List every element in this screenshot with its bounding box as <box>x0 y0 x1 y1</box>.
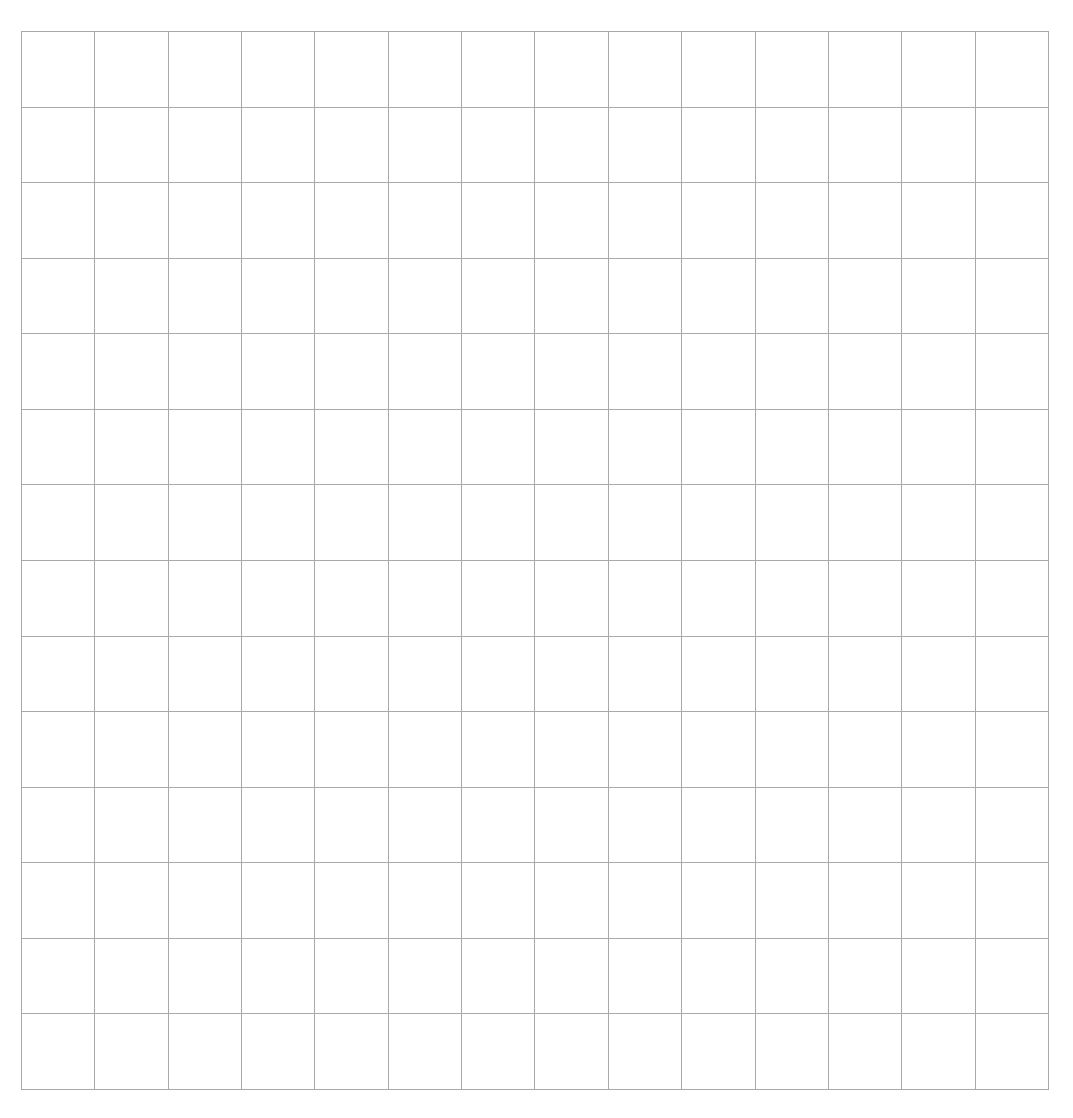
grid-cell <box>901 333 974 409</box>
grid-cell <box>534 31 607 107</box>
grid-cell <box>901 258 974 334</box>
grid-cell <box>388 711 461 787</box>
grid-cell <box>755 333 828 409</box>
grid-cell <box>755 636 828 712</box>
grid-cell <box>168 862 241 938</box>
grid-cell <box>388 560 461 636</box>
grid-cell <box>461 938 534 1014</box>
grid-cell <box>901 711 974 787</box>
grid-cell <box>681 1013 754 1089</box>
grid-cell <box>901 31 974 107</box>
grid-cell <box>168 938 241 1014</box>
grid-cell <box>461 711 534 787</box>
grid-cell <box>534 258 607 334</box>
grid-cell <box>755 409 828 485</box>
grid-cell <box>534 862 607 938</box>
grid-cell <box>534 636 607 712</box>
grid-cell <box>828 787 901 863</box>
grid-cell <box>241 484 314 560</box>
grid-cell <box>314 862 387 938</box>
grid-cell <box>828 409 901 485</box>
grid-cell <box>681 409 754 485</box>
grid-cell <box>461 409 534 485</box>
grid-cell <box>21 1013 94 1089</box>
grid-cell <box>975 862 1048 938</box>
grid-cell <box>534 560 607 636</box>
grid-cell <box>755 182 828 258</box>
grid-cell <box>241 1013 314 1089</box>
grid-cell <box>608 862 681 938</box>
grid-cell <box>534 787 607 863</box>
grid-cell <box>975 258 1048 334</box>
grid-cell <box>681 182 754 258</box>
grid-cell <box>975 636 1048 712</box>
grid-cell <box>975 560 1048 636</box>
grid-cell <box>828 862 901 938</box>
grid-cell <box>461 258 534 334</box>
grid-cell <box>168 711 241 787</box>
grid-cell <box>388 31 461 107</box>
grid-cell <box>314 31 387 107</box>
grid-cell <box>681 938 754 1014</box>
grid-cell <box>608 787 681 863</box>
grid-cell <box>94 333 167 409</box>
grid-cell <box>901 484 974 560</box>
grid-cell <box>21 31 94 107</box>
grid-cell <box>314 484 387 560</box>
grid-cell <box>681 31 754 107</box>
grid-cell <box>755 938 828 1014</box>
grid-cell <box>461 484 534 560</box>
grid-cell <box>534 1013 607 1089</box>
grid-cell <box>681 862 754 938</box>
grid-cell <box>21 182 94 258</box>
grid-cell <box>608 711 681 787</box>
grid-cell <box>975 711 1048 787</box>
grid-cell <box>828 560 901 636</box>
grid-cell <box>901 1013 974 1089</box>
grid-cell <box>828 31 901 107</box>
grid-cell <box>975 787 1048 863</box>
grid-cell <box>608 484 681 560</box>
grid-cell <box>314 258 387 334</box>
grid-cell <box>975 409 1048 485</box>
grid-cell <box>241 31 314 107</box>
grid-cell <box>608 31 681 107</box>
grid-cell <box>681 333 754 409</box>
grid-cell <box>168 484 241 560</box>
grid-cell <box>314 182 387 258</box>
grid-cell <box>94 787 167 863</box>
grid-cell <box>461 560 534 636</box>
grid-cell <box>461 862 534 938</box>
grid-cell <box>94 182 167 258</box>
grid-cell <box>168 31 241 107</box>
grid-cell <box>314 107 387 183</box>
grid-cell <box>241 560 314 636</box>
grid-cell <box>608 182 681 258</box>
grid-cell <box>461 333 534 409</box>
grid-cell <box>828 636 901 712</box>
grid-cell <box>314 711 387 787</box>
grid-cell <box>534 409 607 485</box>
grid-cell <box>461 107 534 183</box>
grid-cell <box>241 107 314 183</box>
grid-cell <box>755 107 828 183</box>
grid-cell <box>314 787 387 863</box>
grid-cell <box>21 107 94 183</box>
grid-cell <box>755 1013 828 1089</box>
grid-cell <box>828 938 901 1014</box>
grid-cell <box>94 484 167 560</box>
grid-cell <box>168 1013 241 1089</box>
grid-cell <box>94 636 167 712</box>
grid-cell <box>388 409 461 485</box>
grid-cell <box>21 636 94 712</box>
grid-cell <box>975 333 1048 409</box>
grid-cell <box>534 711 607 787</box>
grid-cell <box>901 409 974 485</box>
grid-cell <box>388 107 461 183</box>
grid-cell <box>241 636 314 712</box>
grid-cell <box>901 182 974 258</box>
grid-cell <box>608 107 681 183</box>
grid-cell <box>21 938 94 1014</box>
grid-cell <box>461 182 534 258</box>
grid-cell <box>21 787 94 863</box>
